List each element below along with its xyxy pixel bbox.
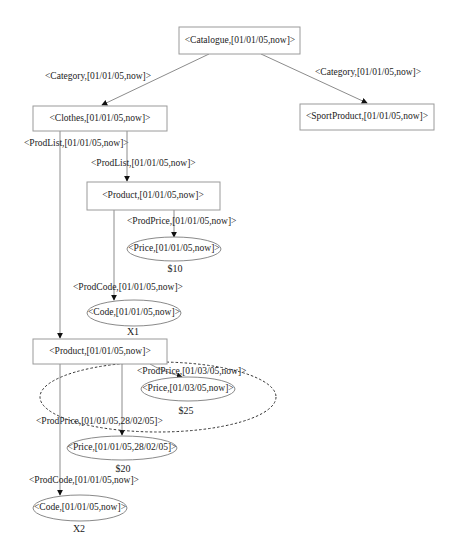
node-label: <Code,[01/01/05,now]>	[88, 307, 180, 317]
node-value: $25	[179, 405, 194, 416]
node-label: <Price,[01/01/05,now]>	[128, 243, 219, 253]
node-label: <Catalogue,[01/01/05,now]>	[185, 35, 295, 45]
node-sportproduct: <SportProduct,[01/01/05,now]>	[300, 104, 434, 130]
edge-label-prodcode-code2: <ProdCode,[01/01/05,now]>	[29, 475, 139, 485]
node-product-2: <Product,[01/01/05,now]>	[33, 339, 167, 364]
temporal-graph-diagram: <Category,[01/01/05,now]> <Category,[01/…	[0, 0, 461, 557]
edge-label-prodprice-price2: <ProdPrice,[01/03/05,now]>	[137, 366, 246, 376]
node-price-2: <Price,[01/03/05,now]> $25	[141, 377, 235, 416]
edge-label-prodlist-product2: <ProdList,[01/01/05,now]>	[24, 138, 129, 148]
node-price-1: <Price,[01/01/05,now]> $10	[127, 237, 221, 274]
edge-label-prodprice-price1: <ProdPrice,[01/01/05,now]>	[127, 216, 236, 226]
node-label: <SportProduct,[01/01/05,now]>	[306, 111, 428, 121]
node-label: <Price,[01/01/05,28/02/05]>	[68, 442, 177, 452]
node-code-2: <Code,[01/01/05,now]> X2	[33, 495, 127, 534]
node-label: <Product,[01/01/05,now]>	[49, 346, 151, 356]
edge-label-category-clothes: <Category,[01/01/05,now]>	[45, 71, 151, 81]
node-label: <Clothes,[01/01/05,now]>	[50, 113, 151, 123]
node-value: $20	[116, 463, 131, 474]
node-label: <Product,[01/01/05,now]>	[102, 190, 204, 200]
node-label: <Code,[01/01/05,now]>	[34, 502, 126, 512]
node-label: <Price,[01/03/05,now]>	[142, 383, 233, 393]
node-clothes: <Clothes,[01/01/05,now]>	[33, 106, 167, 131]
node-catalogue: <Catalogue,[01/01/05,now]>	[179, 27, 300, 54]
edge-label-prodcode-code1: <ProdCode,[01/01/05,now]>	[73, 282, 183, 292]
node-value: X1	[127, 326, 139, 337]
node-product-1: <Product,[01/01/05,now]>	[87, 182, 220, 210]
edge-label-prodlist-product1: <ProdList,[01/01/05,now]>	[91, 158, 196, 168]
edge-catalogue-sportproduct	[261, 54, 367, 103]
node-value: $10	[168, 263, 183, 274]
node-code-1: <Code,[01/01/05,now]> X1	[87, 300, 181, 337]
edge-label-category-sport: <Category,[01/01/05,now]>	[315, 67, 421, 77]
edge-label-prodprice-price3: <ProdPrice,[01/01/05,28/02/05]>	[36, 416, 163, 426]
node-value: X2	[73, 523, 85, 534]
node-price-3: <Price,[01/01/05,28/02/05]> $20	[67, 436, 177, 474]
